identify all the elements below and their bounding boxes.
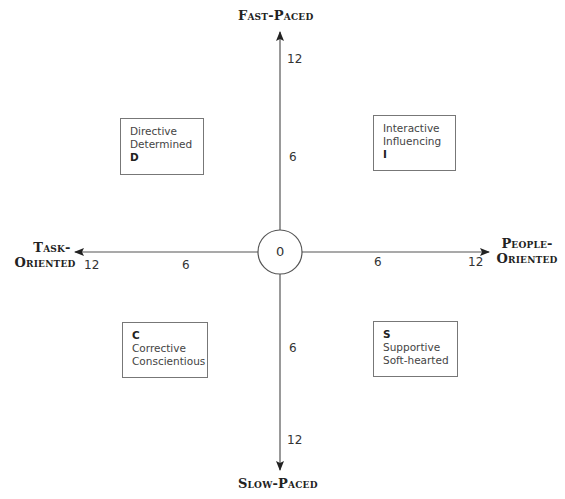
quadrant-box-c: C Corrective Conscientious bbox=[122, 322, 208, 378]
quadrant-box-i: Interactive Influencing I bbox=[373, 115, 456, 171]
disc-quadrant-diagram: 0 Fast-Paced Slow-Paced Task- Oriented P… bbox=[0, 0, 565, 499]
axis-title-task-line1: Task- bbox=[18, 240, 86, 255]
tick-left-12: 12 bbox=[84, 258, 99, 272]
quadrant-i-line1: Interactive bbox=[383, 122, 455, 135]
tick-down-6: 6 bbox=[289, 341, 297, 355]
quadrant-s-line1: Supportive bbox=[383, 341, 457, 354]
quadrant-box-s: S Supportive Soft-hearted bbox=[373, 321, 458, 377]
tick-up-12: 12 bbox=[287, 52, 302, 66]
quadrant-c-line1: Corrective bbox=[132, 342, 207, 355]
quadrant-c-line2: Conscientious bbox=[132, 355, 207, 368]
origin-label: 0 bbox=[276, 244, 284, 259]
tick-down-12: 12 bbox=[287, 433, 302, 447]
axis-title-people-oriented: People- Oriented bbox=[494, 236, 560, 266]
quadrant-i-letter: I bbox=[383, 148, 455, 161]
quadrant-i-line2: Influencing bbox=[383, 135, 455, 148]
quadrant-s-line2: Soft-hearted bbox=[383, 354, 457, 367]
quadrant-d-letter: D bbox=[130, 151, 203, 164]
quadrant-d-line1: Directive bbox=[130, 125, 203, 138]
axis-title-fast-paced: Fast-Paced bbox=[238, 8, 313, 23]
tick-right-12: 12 bbox=[468, 255, 483, 269]
quadrant-box-d: Directive Determined D bbox=[120, 118, 204, 175]
quadrant-s-letter: S bbox=[383, 328, 457, 341]
axis-title-people-line1: People- bbox=[494, 236, 560, 251]
axis-title-people-line2: Oriented bbox=[494, 251, 560, 266]
quadrant-c-letter: C bbox=[132, 329, 207, 342]
axis-title-slow-paced: Slow-Paced bbox=[238, 476, 318, 491]
axis-title-task-oriented: Task- Oriented bbox=[18, 240, 86, 270]
axis-title-task-line2: Oriented bbox=[4, 255, 86, 270]
tick-left-6: 6 bbox=[182, 258, 190, 272]
tick-up-6: 6 bbox=[289, 150, 297, 164]
quadrant-d-line2: Determined bbox=[130, 138, 203, 151]
tick-right-6: 6 bbox=[374, 255, 382, 269]
